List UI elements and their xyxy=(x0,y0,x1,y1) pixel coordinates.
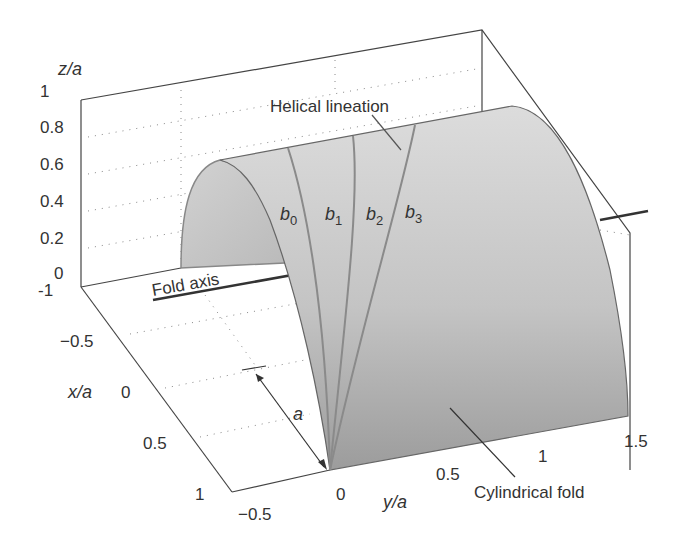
y-axis-label: y/a xyxy=(381,492,407,512)
cylindrical-fold-label: Cylindrical fold xyxy=(474,483,585,502)
cylindrical-fold-surface xyxy=(220,106,628,470)
z-tick: 0.2 xyxy=(40,229,64,248)
x-axis: -1 −0.5 0 0.5 1 x/a xyxy=(38,281,204,504)
arrowhead-icon xyxy=(256,374,264,382)
x-tick: 1 xyxy=(195,485,204,504)
z-tick: 0.8 xyxy=(40,118,64,137)
z-tick: 1 xyxy=(40,82,49,101)
helical-lineation-label: Helical lineation xyxy=(270,97,389,116)
x-tick: −0.5 xyxy=(60,332,94,351)
z-tick: 0 xyxy=(54,264,63,283)
x-tick: 0 xyxy=(121,383,130,402)
x-tick: 0.5 xyxy=(143,434,167,453)
y-tick: 1 xyxy=(538,447,547,466)
radius-label: a xyxy=(293,404,303,424)
z-tick: 0.4 xyxy=(40,192,64,211)
fold-axis-line-end xyxy=(600,211,648,220)
x-axis-label: x/a xyxy=(67,382,92,402)
y-tick: 0 xyxy=(336,485,345,504)
z-tick: 0.6 xyxy=(40,155,64,174)
z-axis: z/a 1 0.8 0.6 0.4 0.2 0 xyxy=(40,59,82,283)
y-tick: 1.5 xyxy=(624,432,648,451)
x-tick: -1 xyxy=(38,281,53,300)
y-tick: −0.5 xyxy=(238,505,272,524)
y-tick: 0.5 xyxy=(436,465,460,484)
cylindrical-fold-diagram: z/a 1 0.8 0.6 0.4 0.2 0 -1 −0.5 0 0.5 1 … xyxy=(0,0,681,542)
z-axis-label: z/a xyxy=(57,59,82,79)
